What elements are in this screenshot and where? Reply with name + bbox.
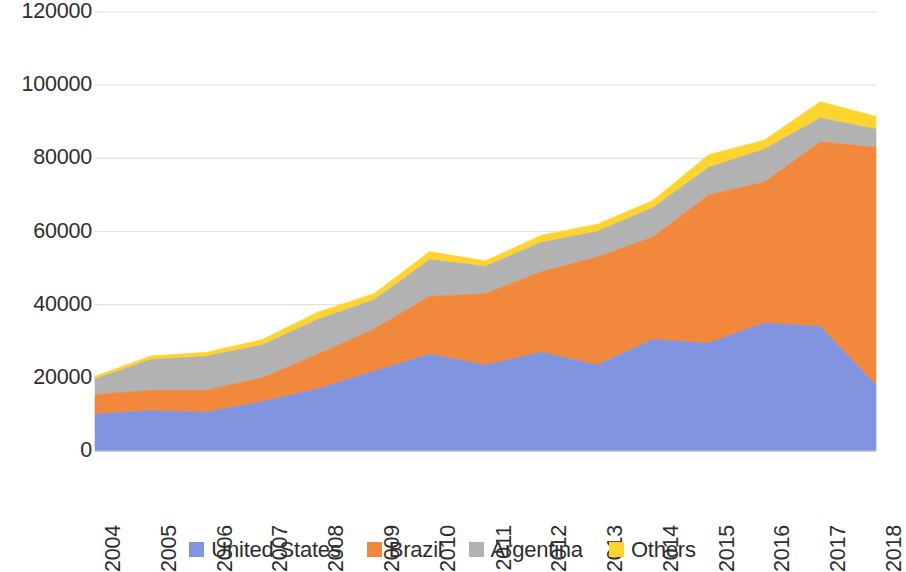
x-axis-tick-label: 2018 <box>884 525 906 572</box>
legend-label: Brazil <box>389 539 443 561</box>
legend-swatch-icon <box>189 542 204 557</box>
legend-item[interactable]: Argentina <box>469 539 583 561</box>
y-axis-tick-label: 60000 <box>6 221 92 243</box>
x-axis: 2004200520062007200820092010201120122013… <box>0 451 885 531</box>
y-axis-tick-label: 40000 <box>6 294 92 316</box>
y-axis-tick-label: 20000 <box>6 367 92 389</box>
legend-swatch-icon <box>469 542 484 557</box>
legend-item[interactable]: United States <box>189 539 340 561</box>
legend-item[interactable]: Others <box>609 539 696 561</box>
legend-swatch-icon <box>367 542 382 557</box>
plot-canvas <box>0 0 885 462</box>
legend-label: Others <box>631 539 696 561</box>
y-axis-tick-label: 100000 <box>6 74 92 96</box>
legend-label: Argentina <box>491 539 583 561</box>
y-axis-tick-label: 120000 <box>6 1 92 23</box>
chart-legend: United StatesBrazilArgentinaOthers <box>0 532 885 567</box>
legend-swatch-icon <box>609 542 624 557</box>
legend-label: United States <box>211 539 340 561</box>
y-axis: 120000100000800006000040000200000 <box>0 0 92 462</box>
y-axis-tick-label: 80000 <box>6 147 92 169</box>
legend-item[interactable]: Brazil <box>367 539 443 561</box>
area-bands <box>95 102 876 451</box>
plot-area <box>0 0 885 462</box>
